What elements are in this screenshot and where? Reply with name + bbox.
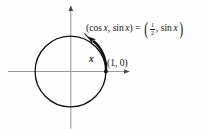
terminal-point-equation-label: (cosx,sinx)=(12,sinx) [86,22,184,36]
one-half-fraction: 12 [150,22,155,36]
eq-comma-2: , [156,24,158,34]
eq-equals-sign: = [135,24,140,34]
eq-lhs-close-paren: ) [130,24,133,34]
fraction-denominator: 2 [151,30,155,36]
point-one-zero-label: (1, 0) [107,59,128,69]
eq-sin-2: sin [161,24,172,34]
angle-x-label: x [89,55,94,65]
eq-sin: sin [113,24,124,34]
fraction-numerator: 1 [151,22,155,28]
point-one-zero-marker [104,70,108,74]
unit-circle-canvas [0,0,209,132]
eq-var-3: x [173,24,177,34]
eq-comma-1: , [108,24,110,34]
eq-cos: cos [89,24,102,34]
unit-circle-figure: (cosx,sinx)=(12,sinx) (1, 0) x [0,0,209,132]
